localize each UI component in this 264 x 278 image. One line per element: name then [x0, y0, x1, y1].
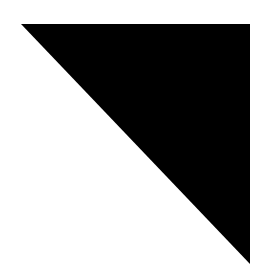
canvas	[0, 0, 264, 278]
